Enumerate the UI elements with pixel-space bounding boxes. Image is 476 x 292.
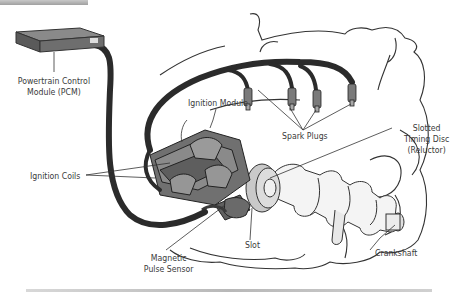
label-timing-disc: Slotted Timing Disc (Reluctor): [402, 122, 451, 155]
timing-disc: [246, 164, 280, 212]
label-ignition-coils: Ignition Coils: [30, 170, 80, 181]
label-ignition-module: Ignition Module: [188, 97, 248, 108]
label-spark-plugs: Spark Plugs: [282, 130, 328, 141]
spark-plugs: [244, 84, 356, 112]
label-magnetic-pulse-sensor: Magnetic Pulse Sensor: [140, 252, 197, 274]
label-slot: Slot: [245, 239, 260, 250]
crankshaft-illustration: [271, 164, 404, 244]
pcm-box: [16, 28, 104, 52]
label-crankshaft: Crankshaft: [375, 247, 417, 258]
label-pcm: Powertrain Control Module (PCM): [17, 75, 91, 97]
